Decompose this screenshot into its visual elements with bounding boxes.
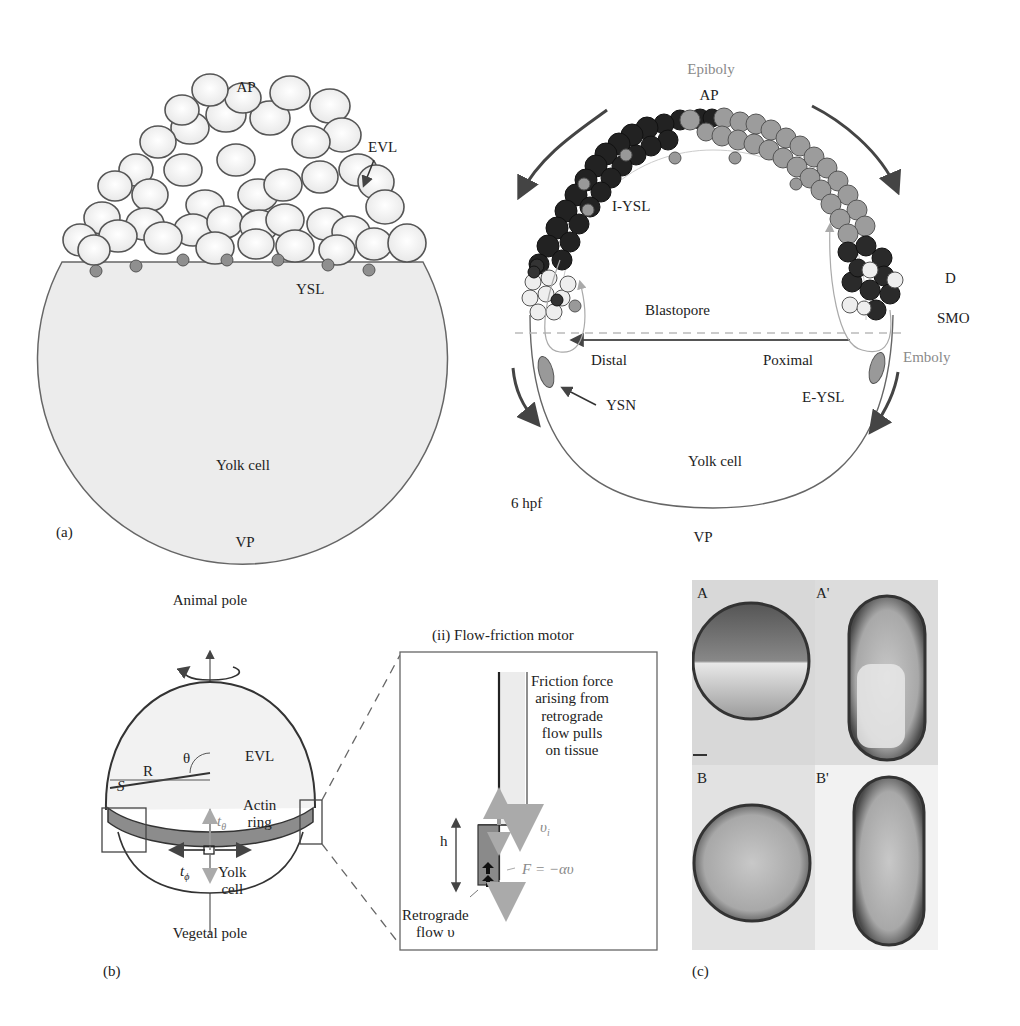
label-t-phi: tϕ bbox=[180, 864, 189, 882]
label-epiboly: Epiboly bbox=[687, 62, 735, 77]
label-emboly: Emboly bbox=[903, 350, 951, 365]
photo-label-b: B bbox=[697, 771, 707, 786]
panel-label-b: (b) bbox=[103, 964, 121, 979]
label-evl-sphere: EVL bbox=[245, 749, 274, 764]
label-yolk-cell-right: Yolk cell bbox=[688, 454, 742, 469]
photo-label-a-prime: A' bbox=[816, 586, 830, 601]
panel-b-motor bbox=[400, 652, 657, 950]
label-force-equation: F = −αυ bbox=[522, 862, 574, 877]
label-i-ysl: I-YSL bbox=[612, 199, 650, 214]
label-vp-left: VP bbox=[235, 535, 254, 550]
photo-label-a: A bbox=[697, 586, 708, 601]
label-evl-left: EVL bbox=[368, 140, 397, 155]
label-theta: θ bbox=[183, 751, 190, 766]
label-animal-pole: Animal pole bbox=[173, 593, 248, 608]
label-h: h bbox=[440, 834, 448, 849]
label-yolk-cell-sphere: Yolk cell bbox=[218, 864, 247, 899]
label-ysn: YSN bbox=[606, 398, 636, 413]
label-vegetal-pole: Vegetal pole bbox=[173, 926, 248, 941]
label-v-i: υi bbox=[540, 820, 550, 838]
yolk-cell-shape bbox=[37, 262, 447, 564]
label-blastopore: Blastopore bbox=[645, 303, 710, 318]
label-actin-ring: Actin ring bbox=[243, 797, 276, 832]
label-vp-right: VP bbox=[693, 530, 712, 545]
label-retrograde-flow: Retrograde flow υ bbox=[402, 907, 469, 942]
label-d: D bbox=[945, 271, 956, 286]
label-smo: SMO bbox=[937, 311, 970, 326]
label-ysl: YSL bbox=[296, 282, 324, 297]
label-ap-right: AP bbox=[699, 88, 718, 103]
label-r: R bbox=[143, 764, 153, 779]
label-6-hpf: 6 hpf bbox=[511, 496, 542, 511]
label-proximal: Poximal bbox=[763, 353, 813, 368]
label-motor-title: (ii) Flow-friction motor bbox=[432, 628, 574, 643]
panel-c-photo-grid: A A' B B' bbox=[692, 580, 938, 950]
label-friction-text: Friction force arising from retrograde f… bbox=[531, 673, 613, 759]
label-t-theta: tθ bbox=[217, 814, 226, 832]
label-distal: Distal bbox=[591, 353, 627, 368]
label-e-ysl: E-YSL bbox=[802, 390, 845, 405]
embryo-photos bbox=[692, 580, 938, 950]
panel-label-c: (c) bbox=[692, 964, 709, 979]
blastoderm-cells bbox=[63, 74, 426, 265]
label-s: S bbox=[117, 779, 125, 794]
label-yolk-cell-left: Yolk cell bbox=[216, 458, 270, 473]
label-ap-left: AP bbox=[236, 80, 255, 95]
panel-label-a: (a) bbox=[56, 525, 73, 540]
photo-label-b-prime: B' bbox=[816, 771, 829, 786]
